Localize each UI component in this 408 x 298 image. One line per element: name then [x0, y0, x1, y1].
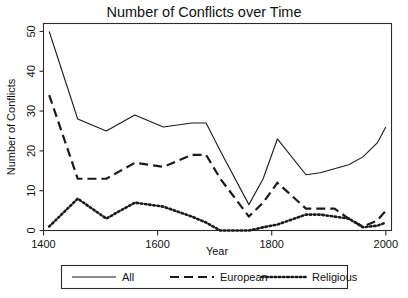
y-tick-label: 50 [25, 25, 37, 37]
chart-title: Number of Conflicts over Time [106, 4, 301, 20]
x-axis-title: Year [206, 245, 229, 257]
series-religious [49, 199, 386, 231]
x-tick-label: 2000 [374, 238, 398, 250]
chart-figure: Number of Conflicts over Time 0102030405… [0, 0, 408, 298]
y-axis-title: Number of Conflicts [5, 78, 17, 175]
legend-label-all: All [122, 271, 134, 283]
x-tick-label: 1400 [31, 238, 55, 250]
x-tick-label: 1600 [145, 238, 169, 250]
y-tick-label: 10 [25, 185, 37, 197]
y-tick-label: 0 [25, 227, 37, 233]
y-axis-ticks: 01020304050 [25, 25, 44, 233]
legend-label-religious: Religious [312, 271, 358, 283]
x-tick-label: 1800 [259, 238, 283, 250]
y-tick-label: 30 [25, 105, 37, 117]
legend-label-european: European [220, 271, 268, 283]
chart-legend: AllEuropeanReligious [62, 266, 358, 289]
series-european [49, 95, 386, 226]
y-tick-label: 20 [25, 145, 37, 157]
conflicts-line-chart: Number of Conflicts over Time 0102030405… [0, 0, 408, 298]
y-tick-label: 40 [25, 65, 37, 77]
series-all [49, 31, 386, 204]
data-series-group [49, 31, 386, 230]
